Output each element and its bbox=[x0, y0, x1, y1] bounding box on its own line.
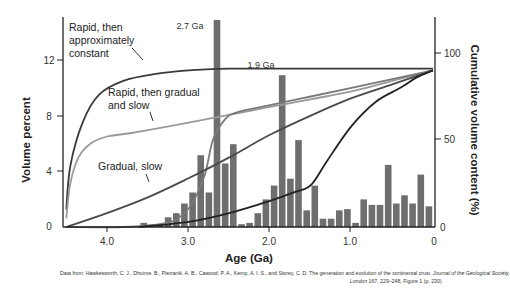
caption-text: 167, 229–248, Figure 1 (p. 230). bbox=[367, 278, 443, 284]
histogram-bar bbox=[360, 199, 367, 227]
histogram-bar bbox=[222, 164, 229, 228]
histogram-bar bbox=[320, 219, 327, 227]
histogram-bar bbox=[214, 20, 221, 227]
y-right-tick-label: 0 bbox=[440, 222, 446, 233]
axes bbox=[57, 17, 441, 232]
histogram-bar bbox=[279, 75, 286, 227]
y-right-tick-label: 100 bbox=[444, 48, 461, 59]
histogram-bar bbox=[295, 140, 302, 227]
peak-label-1-9-ga: 1.9 Ga bbox=[247, 60, 274, 70]
annotation-leader bbox=[146, 174, 149, 182]
y-axis-title: Volume percent bbox=[20, 97, 32, 183]
peak-label-2-7-ga: 2.7 Ga bbox=[176, 21, 203, 31]
x-tick-label: 2.0 bbox=[262, 236, 276, 247]
annotation-rapid-gradual: and slow bbox=[108, 99, 150, 111]
histogram-bar bbox=[393, 204, 400, 228]
annotation-leader bbox=[132, 48, 143, 60]
histogram-bar bbox=[287, 179, 294, 227]
histogram-bar bbox=[377, 205, 384, 227]
caption-source-cont: London 167, 229–248, Figure 1 (p. 230). bbox=[0, 278, 443, 284]
histogram-bar bbox=[385, 165, 392, 227]
caption-journal: Journal of the Geological Society, bbox=[433, 270, 510, 276]
caption-source: Data from: Hawkesworth, C. J., Dhuime, B… bbox=[60, 270, 500, 276]
histogram-bar bbox=[426, 206, 433, 227]
annotation-leader bbox=[150, 112, 153, 121]
y-right-tick-label: 50 bbox=[444, 134, 456, 145]
y-tick-label: 12 bbox=[43, 55, 55, 66]
y-tick-label: 0 bbox=[46, 221, 52, 232]
annotation-rapid-gradual: Rapid, then gradual bbox=[108, 86, 200, 98]
annotation-gradual-slow: Gradual, slow bbox=[98, 160, 163, 172]
x-tick-label: 1.0 bbox=[343, 236, 357, 247]
histogram-bar bbox=[401, 195, 408, 227]
y-tick-label: 8 bbox=[46, 111, 52, 122]
annotation-rapid-constant: Rapid, then bbox=[69, 21, 123, 33]
histogram-bar bbox=[344, 209, 351, 227]
annotation-rapid-constant: approximately bbox=[69, 34, 135, 46]
y-tick-label: 4 bbox=[46, 166, 52, 177]
x-axis-title: Age (Ga) bbox=[225, 252, 273, 264]
x-tick-label: 3.0 bbox=[181, 236, 195, 247]
histogram-bar bbox=[312, 186, 319, 227]
histogram-bar bbox=[409, 204, 416, 228]
histogram-bar bbox=[328, 219, 335, 227]
caption-journal: London bbox=[350, 278, 367, 284]
annotation-rapid-constant: constant bbox=[69, 47, 109, 59]
histogram-bar bbox=[418, 175, 425, 227]
histogram-bar bbox=[303, 210, 310, 227]
x-tick-label: 4.0 bbox=[100, 236, 114, 247]
histogram-bar bbox=[369, 205, 376, 227]
histogram-bar bbox=[206, 193, 213, 228]
y-right-axis-title: Cumulative volume content (%) bbox=[469, 44, 481, 215]
x-tick-label: 0 bbox=[431, 236, 437, 247]
histogram-bar bbox=[255, 213, 262, 227]
caption-text: Data from: Hawkesworth, C. J., Dhuime, B… bbox=[60, 270, 433, 276]
histogram-bar bbox=[336, 210, 343, 227]
histogram-bar bbox=[271, 186, 278, 227]
